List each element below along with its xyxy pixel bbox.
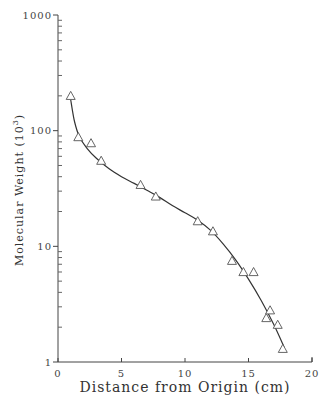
data-points xyxy=(66,91,287,352)
y-tick-label: 10 xyxy=(37,241,52,252)
triangle-marker xyxy=(74,133,83,141)
triangle-marker xyxy=(136,180,145,188)
triangle-marker xyxy=(273,320,282,328)
x-tick-label: 20 xyxy=(305,368,320,379)
y-tick-label: 1000 xyxy=(23,10,52,21)
x-tick-label: 10 xyxy=(178,368,193,379)
y-axis-label: Molecular Weight (103) xyxy=(11,114,26,266)
x-axis-ticks: 05101520 xyxy=(54,358,319,379)
axes xyxy=(58,15,312,362)
x-tick-label: 15 xyxy=(241,368,256,379)
x-tick-label: 0 xyxy=(54,368,61,379)
triangle-marker xyxy=(278,344,287,352)
x-tick-label: 5 xyxy=(118,368,125,379)
y-axis-ticks: 1101001000 xyxy=(23,10,62,368)
triangle-marker xyxy=(208,227,217,235)
triangle-marker xyxy=(249,267,258,275)
x-axis-label: Distance from Origin (cm) xyxy=(79,379,290,395)
y-tick-label: 100 xyxy=(30,125,52,136)
chart: 1101001000 05101520 Distance from Origin… xyxy=(0,0,330,403)
triangle-marker xyxy=(87,139,96,147)
triangle-marker xyxy=(227,256,236,264)
triangle-marker xyxy=(66,91,75,99)
fitted-curve xyxy=(71,100,284,347)
triangle-marker xyxy=(239,267,248,275)
y-tick-label: 1 xyxy=(45,357,52,368)
